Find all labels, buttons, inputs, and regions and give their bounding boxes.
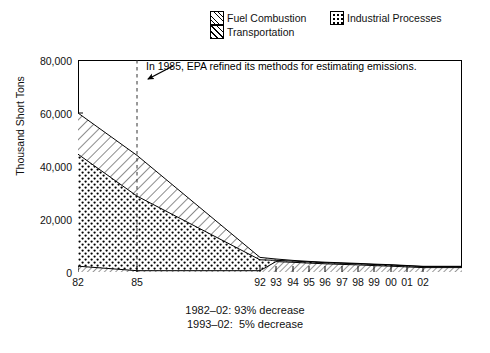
x-axis-tick-labels: 82 85 92 93 94 95 96 97 98 99 00 01 02	[0, 0, 490, 353]
caption-line-1: 1982–02: 93% decrease	[0, 303, 490, 317]
x-tick-label-85: 85	[126, 276, 148, 288]
x-tick-label-82: 82	[67, 276, 89, 288]
chart-container: Fuel Combustion Industrial Processes Tra…	[0, 0, 490, 353]
x-tick-label-02: 02	[412, 276, 434, 288]
caption-line-2: 1993–02: 5% decrease	[0, 317, 490, 331]
chart-caption: 1982–02: 93% decrease 1993–02: 5% decrea…	[0, 303, 490, 331]
